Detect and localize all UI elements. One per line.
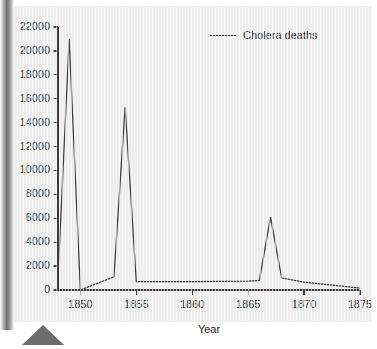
x-axis-ticks <box>80 290 360 295</box>
y-axis-tick-label: 4000 <box>26 236 50 247</box>
series-line-cholera-deaths <box>58 39 360 290</box>
y-axis-tick-label: 14000 <box>19 117 50 128</box>
legend-line-swatch <box>210 35 236 36</box>
cholera-deaths-line-chart: 0200040006000800010000120001400016000180… <box>14 6 372 322</box>
x-axis-tick-label: 1870 <box>284 299 324 310</box>
y-axis-tick-label: 0 <box>44 284 50 295</box>
x-axis-tick-label: 1850 <box>60 299 100 310</box>
x-axis-tick-label: 1875 <box>340 299 377 310</box>
y-axis-ticks <box>53 27 58 290</box>
y-axis-tick-label: 6000 <box>26 212 50 223</box>
axes <box>58 27 360 290</box>
y-axis-tick-label: 8000 <box>26 188 50 199</box>
x-axis-title: Year <box>58 323 360 335</box>
y-axis-tick-label: 12000 <box>19 141 50 152</box>
y-axis-tick-label: 10000 <box>19 164 50 175</box>
legend-label-cholera-deaths: Cholera deaths <box>243 29 318 41</box>
chart-legend: Cholera deaths <box>210 29 318 41</box>
y-axis-tick-label: 2000 <box>26 260 50 271</box>
y-axis-tick-label: 18000 <box>19 69 50 80</box>
y-axis-tick-label: 16000 <box>19 93 50 104</box>
y-axis-tick-label: 22000 <box>19 21 50 32</box>
plot-canvas <box>14 6 372 322</box>
y-axis-tick-label: 20000 <box>19 45 50 56</box>
x-axis-tick-label: 1860 <box>172 299 212 310</box>
page-gutter-shadow <box>0 0 14 330</box>
page-corner-fold <box>22 325 64 345</box>
x-axis-tick-label: 1855 <box>116 299 156 310</box>
x-axis-tick-label: 1865 <box>228 299 268 310</box>
